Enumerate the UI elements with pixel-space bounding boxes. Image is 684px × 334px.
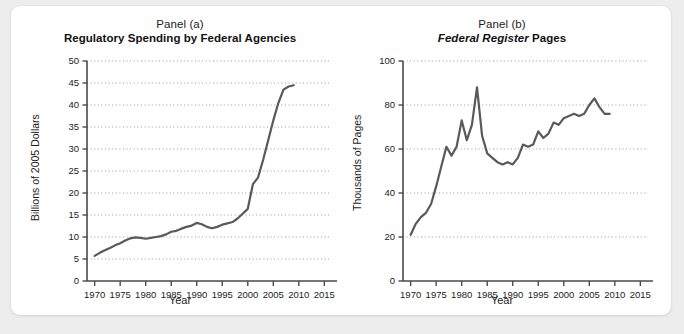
panel-a-y-tick-label: 50 [51, 55, 79, 66]
panel-b-y-tick-label: 80 [367, 99, 395, 110]
panel-a-plot [19, 6, 341, 315]
panel-a-y-tick-label: 0 [51, 275, 79, 286]
panel-a-y-tick-label: 25 [51, 165, 79, 176]
panel-b-y-tick-label: 20 [367, 231, 395, 242]
panel-a-y-tick-label: 5 [51, 253, 79, 264]
chart-panel-b: Panel (b) Federal Register Pages Thousan… [341, 6, 663, 315]
panel-b-x-tick-label: 2015 [623, 289, 657, 300]
chart-panel-a: Panel (a) Regulatory Spending by Federal… [19, 6, 341, 315]
panel-b-y-tick-label: 100 [367, 55, 395, 66]
panel-a-y-tick-label: 30 [51, 143, 79, 154]
panel-a-x-tick-label: 2015 [307, 289, 341, 300]
panel-b-y-tick-label: 0 [367, 275, 395, 286]
figure-card: Panel (a) Regulatory Spending by Federal… [11, 6, 671, 315]
panel-a-y-tick-label: 40 [51, 99, 79, 110]
panel-a-y-tick-label: 15 [51, 209, 79, 220]
panel-a-y-tick-label: 20 [51, 187, 79, 198]
panel-b-y-tick-label: 60 [367, 143, 395, 154]
panel-a-y-tick-label: 10 [51, 231, 79, 242]
panel-b-y-tick-label: 40 [367, 187, 395, 198]
panel-a-y-tick-label: 35 [51, 121, 79, 132]
panel-a-y-tick-label: 45 [51, 77, 79, 88]
panel-b-plot [341, 6, 663, 315]
